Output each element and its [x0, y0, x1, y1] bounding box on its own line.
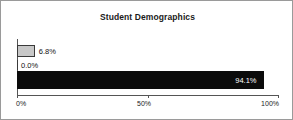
bar-value-label: 94.1% [235, 76, 256, 85]
bar-value-label: 0.0% [21, 61, 38, 70]
plot-area: 6.8% 0.0% 94.1% 0% 50% 100% [17, 39, 279, 95]
x-axis-tick [278, 95, 279, 98]
bar-value-label: 6.8% [39, 47, 56, 56]
bar-segment[interactable] [17, 45, 35, 57]
x-axis-tick-label: 0% [16, 100, 26, 107]
x-axis-tick [17, 95, 18, 98]
x-axis-tick-label: 50% [137, 100, 151, 107]
x-axis-tick-label: 100% [261, 100, 279, 107]
chart-title: Student Demographics [1, 12, 293, 22]
bar-segment[interactable] [17, 60, 18, 70]
x-axis-tick [148, 95, 149, 98]
chart-frame: Student Demographics 6.8% 0.0% 94.1% 0% … [0, 0, 293, 120]
bar-segment[interactable]: 94.1% [17, 71, 264, 89]
